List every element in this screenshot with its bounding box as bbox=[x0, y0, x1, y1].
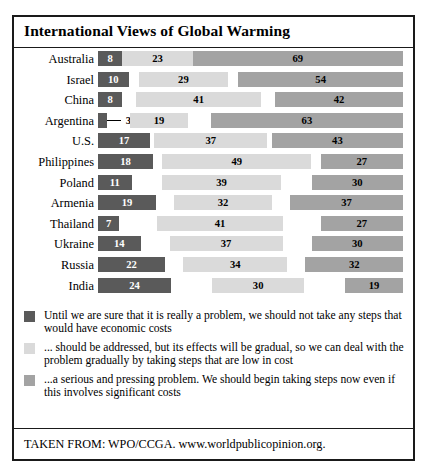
bar-segment: 30 bbox=[312, 175, 404, 190]
chart-row: Armenia193237 bbox=[14, 195, 413, 216]
bar-value-label: 8 bbox=[98, 92, 122, 107]
bar-value-label: 27 bbox=[321, 216, 403, 231]
category-label: Argentina bbox=[14, 113, 94, 134]
bar-segment: 32 bbox=[174, 195, 272, 210]
chart-row: Ukraine143730 bbox=[14, 236, 413, 257]
chart-title: International Views of Global Warming bbox=[24, 22, 290, 40]
bar-value-label: 14 bbox=[98, 236, 141, 251]
bar-segment: 37 bbox=[290, 195, 403, 210]
bar-value-label: 11 bbox=[98, 175, 132, 190]
bar-value-label: 30 bbox=[212, 278, 304, 293]
category-label: U.S. bbox=[14, 133, 94, 154]
bar-value-label: 63 bbox=[211, 113, 403, 128]
chart-plot-area: Australia82369Israel102954China84142Arge… bbox=[14, 51, 413, 301]
bar-segment: 49 bbox=[162, 154, 311, 169]
bar-segment: 69 bbox=[193, 51, 403, 66]
legend-item: ... should be addressed, but its effects… bbox=[22, 341, 405, 368]
category-label: Philippines bbox=[14, 154, 94, 175]
category-label: Australia bbox=[14, 51, 94, 72]
legend-swatch-icon bbox=[24, 343, 35, 354]
legend-swatch-icon bbox=[24, 375, 35, 386]
bar-value-label: 10 bbox=[98, 72, 129, 87]
bar-segment: 41 bbox=[157, 216, 282, 231]
bar-segment: 30 bbox=[212, 278, 304, 293]
bar-value-label: 41 bbox=[136, 92, 261, 107]
bar-value-label: 54 bbox=[238, 72, 403, 87]
bar-segment: 19 bbox=[130, 113, 188, 128]
bar-track: 173743 bbox=[98, 133, 403, 148]
bar-segment: 7 bbox=[98, 216, 119, 231]
bar-value-label: 29 bbox=[139, 72, 227, 87]
bar-segment: 19 bbox=[345, 278, 403, 293]
category-label: Thailand bbox=[14, 216, 94, 237]
bar-track: 82369 bbox=[98, 51, 403, 66]
bar-segment: 19 bbox=[98, 195, 156, 210]
legend-label: Until we are sure that it is really a pr… bbox=[44, 309, 405, 336]
legend-swatch-icon bbox=[24, 311, 35, 322]
bar-segment: 8 bbox=[98, 51, 122, 66]
bar-value-label: 49 bbox=[162, 154, 311, 169]
bar-track: 184927 bbox=[98, 154, 403, 169]
category-label: Ukraine bbox=[14, 236, 94, 257]
chart-row: India243019 bbox=[14, 278, 413, 299]
bar-segment: 24 bbox=[98, 278, 171, 293]
chart-row: Poland113930 bbox=[14, 175, 413, 196]
bar-segment: 30 bbox=[312, 236, 404, 251]
chart-row: Australia82369 bbox=[14, 51, 413, 72]
bar-segment: 34 bbox=[183, 257, 287, 272]
bar-track: 31963 bbox=[98, 113, 403, 128]
bar-value-label: 30 bbox=[312, 175, 404, 190]
value-leader-line bbox=[107, 120, 121, 122]
bar-segment: 18 bbox=[98, 154, 153, 169]
bar-segment: 37 bbox=[154, 133, 267, 148]
chart-row: Israel102954 bbox=[14, 72, 413, 93]
source-attribution: TAKEN FROM: WPO/CCGA. www.worldpublicopi… bbox=[24, 437, 325, 452]
bar-value-label: 22 bbox=[98, 257, 165, 272]
bar-segment: 42 bbox=[275, 92, 403, 107]
bar-value-label: 30 bbox=[312, 236, 404, 251]
bar-value-label: 43 bbox=[272, 133, 403, 148]
bar-value-label: 69 bbox=[193, 51, 403, 66]
chart-row: U.S.173743 bbox=[14, 133, 413, 154]
bar-track: 143730 bbox=[98, 236, 403, 251]
bar-segment: 27 bbox=[321, 216, 403, 231]
bar-segment: 23 bbox=[122, 51, 192, 66]
bar-value-label: 37 bbox=[154, 133, 267, 148]
bar-segment: 63 bbox=[211, 113, 403, 128]
bar-segment: 29 bbox=[139, 72, 227, 87]
bar-segment: 14 bbox=[98, 236, 141, 251]
chart-figure: International Views of Global Warming Au… bbox=[12, 15, 415, 461]
chart-row: China84142 bbox=[14, 92, 413, 113]
legend-item: Until we are sure that it is really a pr… bbox=[22, 309, 405, 336]
bar-segment: 17 bbox=[98, 133, 150, 148]
bar-value-label: 19 bbox=[98, 195, 156, 210]
legend-item: ...a serious and pressing problem. We sh… bbox=[22, 373, 405, 400]
category-label: Israel bbox=[14, 72, 94, 93]
bar-value-label: 8 bbox=[98, 51, 122, 66]
bar-track: 193237 bbox=[98, 195, 403, 210]
title-divider bbox=[14, 47, 413, 48]
category-label: Poland bbox=[14, 175, 94, 196]
bar-segment: 8 bbox=[98, 92, 122, 107]
bar-segment: 39 bbox=[162, 175, 281, 190]
chart-row: Thailand74127 bbox=[14, 216, 413, 237]
bar-value-label: 32 bbox=[174, 195, 272, 210]
bar-track: 102954 bbox=[98, 72, 403, 87]
bar-value-label: 18 bbox=[98, 154, 153, 169]
bar-segment: 10 bbox=[98, 72, 129, 87]
bar-segment: 41 bbox=[136, 92, 261, 107]
bar-value-label: 41 bbox=[157, 216, 282, 231]
bar-value-label: 19 bbox=[130, 113, 188, 128]
bar-value-label: 7 bbox=[98, 216, 119, 231]
category-label: Armenia bbox=[14, 195, 94, 216]
bar-value-label: 37 bbox=[290, 195, 403, 210]
legend-label: ... should be addressed, but its effects… bbox=[44, 341, 405, 368]
bar-segment: 27 bbox=[321, 154, 403, 169]
bar-value-label: 27 bbox=[321, 154, 403, 169]
chart-legend: Until we are sure that it is really a pr… bbox=[22, 309, 405, 404]
chart-row: Russia223432 bbox=[14, 257, 413, 278]
bar-value-label: 39 bbox=[162, 175, 281, 190]
category-label: India bbox=[14, 278, 94, 299]
bar-segment: 32 bbox=[305, 257, 403, 272]
bar-segment: 54 bbox=[238, 72, 403, 87]
